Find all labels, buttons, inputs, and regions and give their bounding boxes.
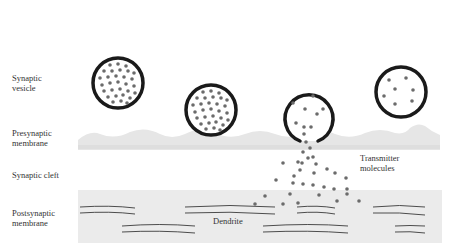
synapse-diagram — [0, 0, 454, 250]
synaptic-vesicle-fusing — [285, 94, 333, 141]
label-synaptic-cleft: Synaptic cleft — [12, 171, 59, 181]
label-postsynaptic-membrane: Postsynaptic membrane — [12, 209, 55, 228]
label-synaptic-vesicle: Synaptic vesicle — [12, 74, 42, 93]
synaptic-vesicle-full-2 — [186, 85, 236, 135]
label-dendrite: Dendrite — [213, 217, 243, 227]
presynaptic-membrane-edge — [78, 145, 440, 149]
label-presynaptic-membrane: Presynaptic membrane — [12, 129, 52, 148]
synaptic-vesicle-sparse — [376, 67, 426, 117]
postsynaptic-membrane-band — [78, 190, 442, 243]
label-transmitter-molecules: Transmitter molecules — [360, 154, 399, 173]
synaptic-vesicle-full-1 — [93, 58, 143, 108]
